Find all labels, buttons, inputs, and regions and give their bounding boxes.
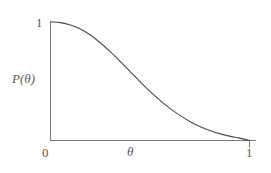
chart-figure: 1 0 1 P(θ) θ <box>0 0 271 173</box>
y-axis-title: P(θ) <box>12 72 35 85</box>
x-axis-tick-label-zero: 0 <box>42 146 49 159</box>
y-axis-tick-label-one: 1 <box>36 16 43 29</box>
x-axis-title: θ <box>127 145 133 158</box>
x-axis-tick-label-one: 1 <box>246 146 253 159</box>
data-curve-probability <box>51 22 250 141</box>
